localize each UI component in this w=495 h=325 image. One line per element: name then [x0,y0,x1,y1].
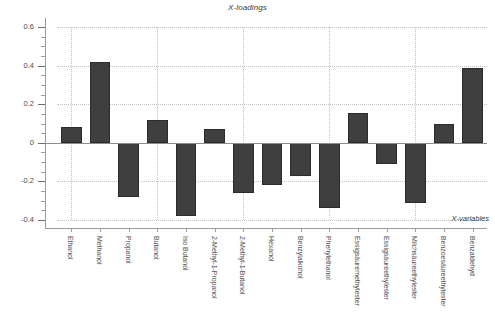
bar [118,143,139,197]
y-axis-minor-tick [41,46,45,47]
y-axis-minor-tick [41,85,45,86]
x-axis-tick-label: Benzaldehyd [469,236,476,276]
y-axis-tick [38,143,45,144]
bar [290,143,311,176]
y-axis-minor-tick [41,56,45,57]
y-axis-minor-tick [41,37,45,38]
x-axis-tick [272,228,273,232]
y-axis-tick-label: -0.4 [0,215,34,224]
x-axis-tick-label: Milchsäureethylester [411,236,418,299]
x-axis-tick-label: Benzylalkohol [297,236,304,279]
y-axis-tick [38,104,45,105]
bar [319,143,340,209]
bar [233,143,254,193]
x-axis-tick-label: Hexanol [268,236,275,261]
x-axis-tick-label: Essigsäureethylester [383,236,390,300]
y-axis-minor-tick [41,114,45,115]
y-axis-minor-tick [41,172,45,173]
y-axis-minor-tick [41,162,45,163]
y-axis-tick [38,220,45,221]
y-axis-minor-tick [41,133,45,134]
x-axis-tick [473,228,474,232]
bar [176,143,197,216]
x-axis-tick [415,228,416,232]
plot-area [57,27,487,220]
x-axis-title: X-variables [451,214,489,223]
x-axis-tick-label: Ethanol [67,236,74,259]
x-axis-tick [301,228,302,232]
y-axis-minor-tick [41,75,45,76]
chart-title: X-loadings [0,3,495,12]
bar [376,143,397,164]
y-axis-tick-label: 0.4 [0,61,34,70]
x-axis-tick-label: Benzoesäureethylester [440,236,447,307]
bar [204,129,225,143]
y-axis-tick-label: 0.6 [0,22,34,31]
y-axis-minor-tick [41,201,45,202]
x-axis-tick-label: Butanol [153,236,160,259]
bar [90,62,111,143]
x-axis-tick [157,228,158,232]
x-axis-tick-label: Methanol [96,236,103,264]
y-axis-line [45,18,46,228]
bar [348,113,369,143]
horizontal-gridline [57,66,487,67]
horizontal-gridline [57,104,487,105]
bar [61,127,82,142]
bar [262,143,283,185]
vertical-gridline [71,27,72,220]
x-axis-tick [358,228,359,232]
x-axis-tick-label: Phenylethanol [325,236,332,280]
x-axis-tick [100,228,101,232]
x-axis-line [45,228,487,229]
y-axis-tick [38,181,45,182]
bar [405,143,426,203]
x-axis-tick-label: 2-Methyl-1-Propanol [211,236,218,298]
x-axis-tick [444,228,445,232]
x-axis-tick-label: Essigsäuremethylester [354,236,361,306]
x-loadings-bar-chart: X-loadings 0.60.40.20-0.2-0.4 EthanolMet… [0,0,495,325]
x-axis-tick [243,228,244,232]
horizontal-gridline [57,27,487,28]
x-axis-tick [329,228,330,232]
x-axis-tick [215,228,216,232]
y-axis-minor-tick [41,95,45,96]
y-axis-minor-tick [41,124,45,125]
y-axis-minor-tick [41,210,45,211]
x-axis-tick [387,228,388,232]
y-axis-tick-label: 0 [0,138,34,147]
y-axis-minor-tick [41,191,45,192]
x-axis-tick [129,228,130,232]
horizontal-gridline [57,220,487,221]
y-axis-tick-label: -0.2 [0,176,34,185]
x-axis-tick-label: Propanol [125,236,132,264]
bar [147,120,168,143]
y-axis-minor-tick [41,152,45,153]
x-axis-tick [186,228,187,232]
y-axis-tick [38,66,45,67]
y-axis-tick [38,27,45,28]
zero-line [45,143,487,144]
bar [434,124,455,143]
x-axis-tick [71,228,72,232]
x-axis-tick-label: 2-Methyl-1-Butanol [239,236,246,294]
y-axis-tick-label: 0.2 [0,99,34,108]
bar [462,68,483,143]
x-axis-tick-label: Iso Butanol [182,236,189,270]
